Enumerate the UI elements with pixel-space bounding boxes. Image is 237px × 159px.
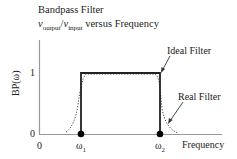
- w1-marker: [78, 131, 85, 138]
- x-tick-w2: ω2: [155, 140, 165, 154]
- w2-marker: [157, 131, 164, 138]
- x-axis-label: Frequency: [182, 139, 224, 150]
- y-axis-label: BP(ω): [10, 71, 21, 96]
- real-filter-curve: [66, 74, 178, 133]
- y-tick-0: 0: [30, 128, 35, 139]
- chart-plot: [0, 0, 237, 159]
- real-arrow: [170, 102, 183, 121]
- ideal-filter-curve: [81, 73, 160, 134]
- x-tick-w1: ω1: [76, 140, 86, 154]
- x-tick-origin: 0: [37, 140, 42, 151]
- real-filter-label: Real Filter: [178, 91, 221, 102]
- ideal-filter-label: Ideal Filter: [167, 45, 211, 56]
- y-tick-1: 1: [30, 67, 35, 78]
